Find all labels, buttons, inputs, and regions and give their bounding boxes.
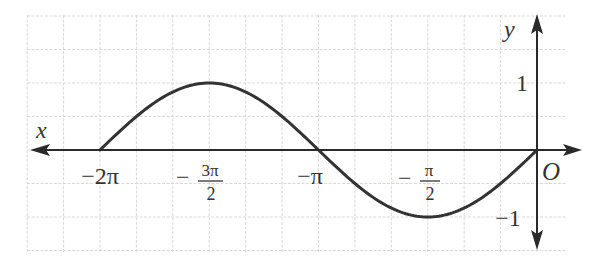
svg-text:3π: 3π bbox=[201, 161, 219, 180]
x-tick-neg-pi-over-2: − π 2 bbox=[398, 161, 440, 204]
x-tick-neg-2pi: −2π bbox=[81, 163, 119, 189]
svg-text:π: π bbox=[425, 161, 434, 180]
origin-label: O bbox=[542, 158, 560, 185]
svg-text:2: 2 bbox=[426, 184, 435, 204]
x-tick-neg-pi: −π bbox=[297, 163, 323, 189]
y-tick-1: 1 bbox=[516, 70, 528, 96]
x-tick-neg-3pi-over-2: − 3π 2 bbox=[176, 161, 223, 204]
y-axis-label: y bbox=[502, 16, 515, 42]
svg-text:2: 2 bbox=[207, 184, 216, 204]
svg-text:−: − bbox=[176, 164, 190, 190]
grid bbox=[27, 15, 566, 252]
svg-text:−: − bbox=[398, 165, 412, 191]
y-tick-neg-1: −1 bbox=[495, 205, 521, 231]
x-axis bbox=[30, 144, 582, 156]
sine-graph: x y O −2π − 3π 2 −π − π 2 1 −1 bbox=[0, 0, 592, 266]
x-axis-label: x bbox=[35, 117, 47, 143]
